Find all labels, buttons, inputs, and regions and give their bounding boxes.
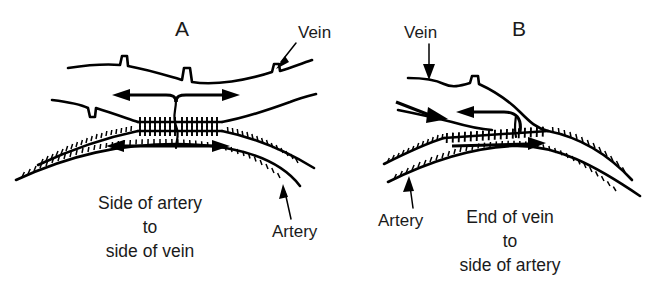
panel-a-vein-lower-wall-left — [52, 100, 138, 122]
panel-b-vein-end-junction — [515, 116, 516, 137]
figure-container: A — [0, 0, 670, 305]
panel-a-shunt-channel — [174, 100, 178, 148]
anastomosis-diagram: A — [0, 0, 670, 305]
panel-b-caption-line-1: End of vein — [466, 207, 554, 227]
panel-b-caption: End of vein to side of artery — [459, 207, 560, 275]
panel-b-artery-upper-wall-left — [384, 138, 444, 164]
panel-b-vein-flow-head — [456, 106, 474, 118]
panel-b: B — [378, 17, 640, 275]
panel-b-artery-label-group: Artery — [378, 176, 424, 230]
panel-a-caption: Side of artery to side of vein — [98, 193, 202, 261]
panel-a-artery-lower-wall — [16, 144, 300, 186]
panel-b-vein-vessel — [398, 76, 548, 131]
panel-a-vein-flow-right-head — [222, 89, 240, 101]
panel-b-vein-label: Vein — [404, 23, 437, 42]
panel-a-vein-flow-left-shaft — [128, 95, 176, 102]
panel-b-artery-upper-wall-right — [548, 131, 632, 180]
panel-a-artery-label: Artery — [272, 222, 318, 241]
panel-b-vein-label-group: Vein — [404, 23, 437, 80]
panel-b-caption-line-2: to — [503, 231, 518, 251]
panel-a-caption-line-2: to — [143, 217, 158, 237]
panel-b-artery-flow-right-shaft — [452, 144, 528, 146]
panel-b-letter: B — [512, 17, 526, 40]
panel-b-vein-upper-wall — [408, 76, 548, 131]
panel-b-artery-leader-head — [403, 176, 414, 192]
panel-a-artery-leader-head — [279, 184, 288, 199]
panel-a-vein-label: Vein — [298, 23, 331, 42]
panel-b-caption-line-3: side of artery — [459, 255, 560, 275]
panel-a-artery-label-group: Artery — [272, 184, 318, 241]
panel-a: A — [16, 17, 331, 261]
panel-a-caption-line-1: Side of artery — [98, 193, 202, 213]
panel-a-caption-line-3: side of vein — [106, 241, 195, 261]
panel-a-vein-flow-right-shaft — [176, 95, 224, 102]
panel-a-vein-vessel — [52, 56, 316, 122]
panel-a-anastomosis — [138, 100, 222, 148]
panel-a-vein-flow-left-head — [112, 89, 130, 101]
panel-a-vein-lower-wall-right — [222, 94, 316, 122]
panel-a-artery-flow-right-head — [212, 140, 230, 152]
panel-a-vein-upper-wall — [68, 56, 312, 83]
panel-a-letter: A — [175, 17, 189, 40]
panel-a-flow-arrows — [106, 89, 240, 152]
panel-a-vein-leader-head — [276, 56, 289, 69]
panel-b-artery-label: Artery — [378, 211, 424, 230]
